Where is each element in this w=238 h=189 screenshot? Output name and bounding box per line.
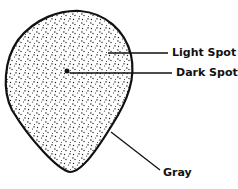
seed-diagram — [0, 0, 238, 189]
dark-spot-label: Dark Spot — [176, 67, 238, 79]
gray-leader — [111, 132, 160, 170]
dark-spot — [65, 69, 70, 74]
gray-label: Gray — [163, 167, 192, 179]
light-spot-label: Light Spot — [172, 47, 236, 59]
seed-outline — [6, 11, 133, 172]
